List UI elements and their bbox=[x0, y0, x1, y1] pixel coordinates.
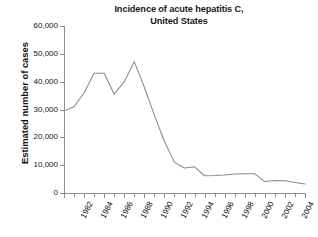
series-layer bbox=[0, 0, 318, 237]
chart-container: Incidence of acute hepatitis C, United S… bbox=[0, 0, 318, 237]
line-series-hepatitis-c bbox=[64, 62, 305, 184]
